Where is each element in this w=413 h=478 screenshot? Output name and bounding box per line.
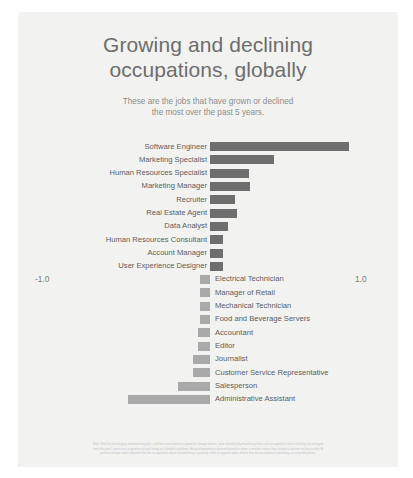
- title-line-2: occupations, globally: [18, 57, 398, 82]
- page-title: Growing and declining occupations, globa…: [18, 32, 398, 82]
- bar-row: Human Resources Specialist: [18, 167, 398, 180]
- bar-growing: [210, 155, 274, 164]
- bar-row: Real Estate Agent: [18, 206, 398, 219]
- bar-declining: [193, 368, 210, 377]
- bar-label: Human Resources Specialist: [110, 168, 208, 178]
- bar-label: Mechanical Technician: [215, 301, 291, 311]
- bar-label: Customer Service Representative: [215, 368, 329, 378]
- title-line-1: Growing and declining: [18, 32, 398, 57]
- bar-row: Recruiter: [18, 193, 398, 206]
- bar-row: Mechanical Technician: [18, 300, 398, 313]
- bar-row: User Experience Designer: [18, 260, 398, 273]
- bar-declining: [193, 355, 210, 364]
- bar-declining: [198, 328, 210, 337]
- bar-declining: [128, 395, 210, 404]
- bar-row: Electrical Technician: [18, 273, 398, 286]
- bar-declining: [178, 382, 210, 391]
- bar-label: Software Engineer: [145, 142, 207, 152]
- bar-label: Manager of Retail: [215, 288, 275, 298]
- bar-row: Account Manager: [18, 246, 398, 259]
- bar-row: Software Engineer: [18, 140, 398, 153]
- bar-label: Real Estate Agent: [146, 208, 207, 218]
- bar-row: Marketing Specialist: [18, 153, 398, 166]
- bar-growing: [210, 222, 228, 231]
- bar-label: Administrative Assistant: [215, 394, 295, 404]
- bar-declining: [198, 342, 210, 351]
- bar-label: Accountant: [215, 328, 253, 338]
- bar-label: Recruiter: [176, 195, 207, 205]
- chart-card-inner: Growing and declining occupations, globa…: [18, 12, 398, 467]
- footnote-line-3: positive change index indicates that the…: [36, 451, 380, 456]
- chart-page: Growing and declining occupations, globa…: [0, 0, 413, 478]
- bar-row: Administrative Assistant: [18, 393, 398, 406]
- bar-growing: [210, 209, 237, 218]
- bar-declining: [200, 315, 210, 324]
- bar-label: Marketing Specialist: [139, 155, 207, 165]
- bar-growing: [210, 262, 223, 271]
- bar-label: Account Manager: [147, 248, 207, 258]
- bar-label: Salesperson: [215, 381, 257, 391]
- bar-label: Human Resources Consultant: [106, 235, 207, 245]
- bar-label: Data Analyst: [164, 221, 207, 231]
- subtitle-line-1: These are the jobs that have grown or de…: [18, 96, 398, 107]
- bar-growing: [210, 169, 249, 178]
- bar-row: Human Resources Consultant: [18, 233, 398, 246]
- bar-declining: [200, 275, 210, 284]
- axis-label-max: 1.0: [355, 274, 367, 284]
- bar-row: Editor: [18, 339, 398, 352]
- bar-row: Accountant: [18, 326, 398, 339]
- chart-card: Growing and declining occupations, globa…: [18, 12, 398, 467]
- bar-row: Marketing Manager: [18, 180, 398, 193]
- bar-label: User Experience Designer: [118, 261, 207, 271]
- bar-growing: [210, 195, 235, 204]
- bar-row: Manager of Retail: [18, 286, 398, 299]
- axis-label-min: -1.0: [35, 274, 49, 284]
- footnote: Note: This list of emerging and declinin…: [36, 442, 380, 456]
- subtitle-line-2: the most over the past 5 years.: [18, 107, 398, 118]
- diverging-bar-chart: Software EngineerMarketing SpecialistHum…: [18, 140, 398, 430]
- bar-row: Customer Service Representative: [18, 366, 398, 379]
- bar-growing: [210, 235, 223, 244]
- bar-growing: [210, 249, 223, 258]
- bar-row: Data Analyst: [18, 220, 398, 233]
- bar-row: Journalist: [18, 353, 398, 366]
- bar-label: Food and Beverage Servers: [215, 314, 310, 324]
- page-subtitle: These are the jobs that have grown or de…: [18, 96, 398, 118]
- bar-growing: [210, 142, 349, 151]
- bar-label: Electrical Technician: [215, 274, 284, 284]
- bar-declining: [200, 288, 210, 297]
- bar-label: Journalist: [215, 354, 248, 364]
- bar-row: Food and Beverage Servers: [18, 313, 398, 326]
- bar-declining: [200, 302, 210, 311]
- bar-growing: [210, 182, 250, 191]
- bar-row: Salesperson: [18, 379, 398, 392]
- bar-label: Marketing Manager: [142, 181, 207, 191]
- bar-label: Editor: [215, 341, 235, 351]
